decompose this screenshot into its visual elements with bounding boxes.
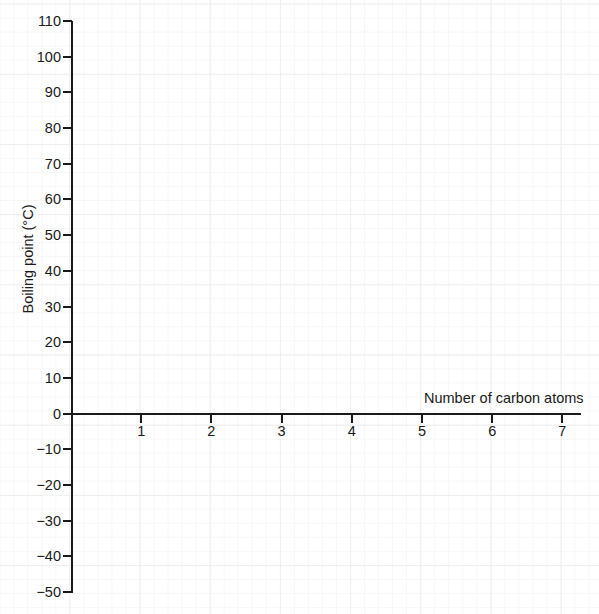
graph-paper-grid (0, 0, 599, 614)
y-tick (63, 520, 72, 522)
y-tick (63, 20, 72, 22)
y-tick-label: 10 (3, 371, 61, 386)
y-tick (63, 591, 72, 593)
x-tick-label: 1 (126, 424, 156, 439)
y-tick (63, 484, 72, 486)
y-tick (63, 198, 72, 200)
x-tick (491, 415, 493, 423)
y-tick (63, 341, 72, 343)
y-tick (63, 270, 72, 272)
chart-canvas: 1101009080706050403020100−10−20−30−40−50… (0, 0, 599, 614)
x-tick (351, 415, 353, 423)
x-tick-label: 7 (547, 424, 577, 439)
y-tick-label: −30 (3, 514, 61, 529)
y-tick (63, 555, 72, 557)
y-tick-label: 100 (3, 50, 61, 65)
x-tick-label: 4 (337, 424, 367, 439)
x-tick (281, 415, 283, 423)
y-tick (63, 306, 72, 308)
x-tick-label: 2 (196, 424, 226, 439)
y-tick-label: 90 (3, 85, 61, 100)
y-tick-label: −40 (3, 549, 61, 564)
y-tick (63, 377, 72, 379)
y-tick (63, 448, 72, 450)
x-tick (561, 415, 563, 423)
y-tick (63, 127, 72, 129)
y-tick-label: 110 (3, 14, 61, 29)
x-tick (140, 415, 142, 423)
y-tick-label: −10 (3, 442, 61, 457)
x-axis-title: Number of carbon atoms (424, 390, 584, 406)
x-axis-line (71, 413, 581, 415)
x-tick-label: 5 (407, 424, 437, 439)
y-tick (63, 56, 72, 58)
y-tick (63, 234, 72, 236)
y-axis-title: Boiling point (°C) (20, 169, 36, 349)
x-tick-label: 3 (267, 424, 297, 439)
x-tick (421, 415, 423, 423)
y-tick (63, 413, 72, 415)
x-tick (210, 415, 212, 423)
y-tick-label: −50 (3, 585, 61, 600)
y-tick-label: 0 (3, 407, 61, 422)
y-tick (63, 91, 72, 93)
x-tick-label: 6 (477, 424, 507, 439)
y-tick (63, 163, 72, 165)
y-tick-label: 80 (3, 121, 61, 136)
y-tick-label: −20 (3, 478, 61, 493)
